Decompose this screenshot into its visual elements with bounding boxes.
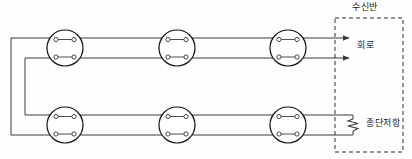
resistor-zigzag — [348, 119, 358, 131]
detector-terminal-dot — [72, 114, 76, 118]
detector-terminal-dot — [277, 132, 281, 136]
terminating-resistor-label: 종단저항 — [366, 118, 400, 129]
detector-terminal-dot — [184, 132, 188, 136]
detector-terminal-dot — [72, 132, 76, 136]
detector-terminal-dot — [184, 114, 188, 118]
circuit-label: 회로 — [357, 40, 374, 51]
wiring-schematic-canvas — [0, 0, 412, 159]
detector-bottom-1[interactable] — [47, 107, 83, 143]
left-return-loops — [11, 38, 25, 135]
detector-body-circle — [47, 107, 83, 143]
detector-bottom-3[interactable] — [270, 107, 306, 143]
detector-body-circle — [270, 30, 306, 66]
wiring-diagram: 수신반 회로 종단저항 — [0, 0, 412, 159]
detector-top-2[interactable] — [159, 30, 195, 66]
detector-terminal-dot — [184, 55, 188, 59]
detector-top-3[interactable] — [270, 30, 306, 66]
detector-terminal-dot — [54, 55, 58, 59]
detector-terminal-dot — [72, 55, 76, 59]
detector-terminal-dot — [166, 37, 170, 41]
detector-body-circle — [159, 30, 195, 66]
detector-body-circle — [47, 30, 83, 66]
detector-terminal-dot — [277, 55, 281, 59]
detector-terminal-dot — [72, 37, 76, 41]
detector-terminal-dot — [184, 37, 188, 41]
detector-terminal-dot — [277, 114, 281, 118]
detector-terminal-dot — [295, 37, 299, 41]
detector-terminal-dot — [54, 37, 58, 41]
detector-bottom-2[interactable] — [159, 107, 195, 143]
detector-terminal-dot — [295, 55, 299, 59]
detector-terminal-dot — [166, 132, 170, 136]
terminating-resistor-loop — [348, 115, 358, 135]
receiver-panel-label: 수신반 — [352, 2, 378, 13]
detector-terminal-dot — [277, 37, 281, 41]
detector-terminal-dot — [54, 132, 58, 136]
detector-terminal-dot — [295, 114, 299, 118]
detector-terminal-dot — [295, 132, 299, 136]
detector-top-1[interactable] — [47, 30, 83, 66]
detector-terminal-dot — [166, 55, 170, 59]
detector-terminal-dot — [166, 114, 170, 118]
detector-body-circle — [270, 107, 306, 143]
circuit-arrows — [341, 38, 349, 58]
detector-terminal-dot — [54, 114, 58, 118]
detector-body-circle — [159, 107, 195, 143]
